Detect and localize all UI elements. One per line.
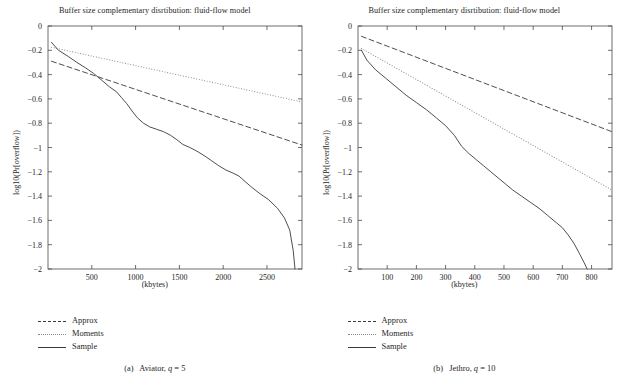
panel-a-caption-value: = 5 [174,364,185,373]
b-y-tick-label: −1.2 [337,168,352,177]
b-y-tick-label: −1.8 [337,241,352,250]
b-y-tick-label: −0.4 [337,71,352,80]
a-series-approx [52,61,303,145]
panel-b-series [361,36,612,269]
panel-b-y-ticks: 0−0.2−0.4−0.6−0.8−1−1.2−1.4−1.6−1.8−2 [337,22,612,274]
panel-b-axes-frame [358,26,612,269]
panel-a-x-axis-label: (kbytes) [0,280,310,289]
a-y-tick-label: −0.2 [27,46,42,55]
legend-item-moments: Moments [348,327,414,340]
panel-a-axes-frame [48,26,302,269]
panel-a-caption-prefix: (a) [124,364,133,373]
dashed-line-icon [348,316,376,326]
b-y-tick-label: −0.2 [337,46,352,55]
panel-b-caption-prefix: (b) [433,364,443,373]
a-y-tick-label: 0 [38,22,42,31]
panel-a-series [52,42,303,269]
solid-line-icon [348,342,376,352]
a-y-tick-label: −2 [33,265,42,274]
b-series-approx [361,36,612,131]
b-y-tick-label: −0.8 [337,119,352,128]
b-series-sample [361,50,587,269]
legend-item-approx: Approx [348,314,414,327]
panel-a-caption-param: q [168,364,172,373]
legend-item-approx: Approx [38,314,104,327]
b-y-tick-label: −1 [343,144,352,153]
panel-b-legend: Approx Moments Sample [348,314,414,353]
dashed-line-icon [38,316,66,326]
legend-label-moments: Moments [72,329,104,338]
b-y-tick-label: −1.4 [337,192,352,201]
panel-b-caption: (b) Jethro, q = 10 [310,364,619,373]
legend-item-moments: Moments [38,327,104,340]
legend-item-sample: Sample [348,340,414,353]
legend-label-moments: Moments [382,329,414,338]
figure-root: Buffer size complementary disrtibution: … [0,0,619,385]
a-y-tick-label: −0.8 [27,119,42,128]
panel-b: Buffer size complementary disrtibution: … [310,0,619,385]
a-y-tick-label: −1.6 [27,216,42,225]
a-y-tick-label: −1.2 [27,168,42,177]
solid-line-icon [38,342,66,352]
dotted-line-icon [348,329,376,339]
panel-a-x-ticks: 5001000150020002500 [86,26,275,282]
legend-item-sample: Sample [38,340,104,353]
a-y-tick-label: −1.8 [27,241,42,250]
panel-a-legend: Approx Moments Sample [38,314,104,353]
panel-b-caption-value: = 10 [480,364,495,373]
a-y-tick-label: −1 [33,144,42,153]
panel-a-caption: (a) Aviator, q = 5 [0,364,310,373]
panel-a-y-ticks: 0−0.2−0.4−0.6−0.8−1−1.2−1.4−1.6−1.8−2 [27,22,302,274]
dotted-line-icon [38,329,66,339]
panel-b-plot: 0−0.2−0.4−0.6−0.8−1−1.2−1.4−1.6−1.8−2 10… [310,0,619,300]
b-y-tick-label: −2 [343,265,352,274]
b-y-tick-label: 0 [348,22,352,31]
panel-b-x-ticks: 100200300400500600700800 [381,26,597,282]
panel-b-x-axis-label: (kbytes) [310,280,619,289]
b-y-tick-label: −1.6 [337,216,352,225]
a-series-sample [52,42,295,269]
panel-a: Buffer size complementary disrtibution: … [0,0,310,385]
panel-b-caption-text: Jethro, [449,364,472,373]
panel-a-plot: 0−0.2−0.4−0.6−0.8−1−1.2−1.4−1.6−1.8−2 50… [0,0,310,300]
a-y-tick-label: −0.6 [27,95,42,104]
a-y-tick-label: −1.4 [27,192,42,201]
a-series-moments [52,47,303,102]
legend-label-sample: Sample [382,342,407,351]
panel-a-caption-text: Aviator, [139,364,166,373]
panel-a-y-axis-label: log10(Pr[overflow]) [12,130,21,195]
legend-label-approx: Approx [72,316,98,325]
a-y-tick-label: −0.4 [27,71,42,80]
panel-b-caption-param: q [474,364,478,373]
legend-label-sample: Sample [72,342,97,351]
b-y-tick-label: −0.6 [337,95,352,104]
panel-b-y-axis-label: log10(Pr[overflow]) [322,130,331,195]
legend-label-approx: Approx [382,316,408,325]
